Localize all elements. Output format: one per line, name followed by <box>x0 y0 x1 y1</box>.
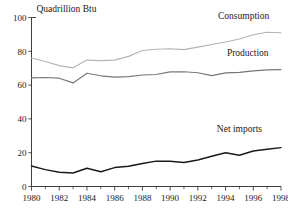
series-label-production: Production <box>227 48 269 58</box>
y-tick-label: 0 <box>22 182 27 192</box>
y-tick-label: 40 <box>18 114 28 124</box>
series-line-production <box>32 70 282 83</box>
x-tick-label: 1984 <box>78 193 97 203</box>
series-label-consumption: Consumption <box>218 11 269 21</box>
series-line-net-imports <box>32 148 282 173</box>
energy-line-chart: 0204060801001980198219841986198819901992… <box>0 0 288 216</box>
x-tick-label: 1982 <box>50 193 68 203</box>
y-tick-label: 100 <box>13 13 27 23</box>
series-label-net-imports: Net imports <box>217 124 262 134</box>
x-tick-label: 1992 <box>189 193 207 203</box>
y-tick-label: 60 <box>18 80 28 90</box>
x-tick-label: 1988 <box>133 193 152 203</box>
y-tick-label: 20 <box>18 148 28 158</box>
x-tick-label: 1980 <box>23 193 42 203</box>
x-tick-label: 1986 <box>106 193 125 203</box>
y-tick-label: 80 <box>18 47 28 57</box>
x-tick-label: 1994 <box>217 193 236 203</box>
y-axis-title: Quadrillion Btu <box>37 4 97 14</box>
x-tick-label: 1996 <box>244 193 263 203</box>
x-tick-label: 1998 <box>272 193 288 203</box>
chart-canvas: 0204060801001980198219841986198819901992… <box>0 0 288 216</box>
x-tick-label: 1990 <box>161 193 180 203</box>
